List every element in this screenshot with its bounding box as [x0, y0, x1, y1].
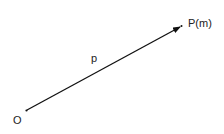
vector-arrow [27, 27, 180, 110]
end-point [181, 25, 183, 27]
vector-diagram: O P(m) p [0, 0, 224, 134]
origin-point [25, 109, 27, 111]
point-label: P(m) [188, 17, 212, 29]
origin-label: O [13, 114, 22, 126]
vector-label: p [91, 52, 97, 64]
